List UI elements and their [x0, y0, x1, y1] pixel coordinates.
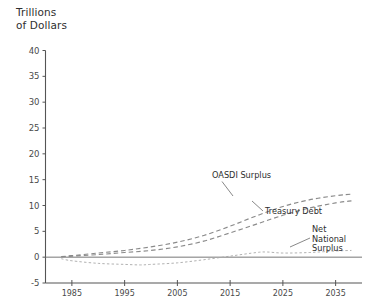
series-line-2	[61, 250, 351, 264]
x-tick-label: 1985	[62, 289, 82, 298]
line-chart-plot: -50510152025303540 198519952005201520252…	[0, 0, 371, 308]
y-tick-label: 10	[29, 201, 40, 211]
x-tick-label: 1995	[114, 289, 134, 298]
label-net-national-surplus-line: Net	[312, 224, 327, 234]
y-axis-tick-labels: -50510152025303540	[29, 46, 40, 289]
label-oasdi-surplus-line: OASDI Surplus	[212, 170, 271, 180]
x-tick-label: 2015	[220, 289, 240, 298]
y-tick-label: 40	[29, 46, 40, 56]
y-tick-label: 30	[29, 97, 40, 107]
series-line-0	[61, 194, 351, 257]
leader-line	[222, 182, 233, 197]
x-tick-label: 2025	[273, 289, 293, 298]
y-tick-label: 20	[29, 149, 40, 159]
y-tick-label: 35	[29, 71, 40, 81]
leader-line	[290, 238, 310, 247]
label-net-national-surplus-line: National	[312, 234, 346, 244]
x-tick-label: 2005	[167, 289, 187, 298]
label-treasury-debt-line: Treasury Debt	[264, 206, 323, 216]
y-tick-label: 5	[34, 226, 39, 236]
y-tick-label: 0	[34, 252, 39, 262]
x-tick-label: 2035	[325, 289, 345, 298]
label-oasdi-surplus: OASDI Surplus	[212, 170, 271, 180]
leader-line	[252, 201, 263, 211]
axis-tick-marks	[43, 51, 336, 287]
data-series-group	[61, 194, 351, 265]
x-axis-tick-labels: 198519952005201520252035	[62, 289, 346, 298]
y-tick-label: -5	[31, 278, 39, 288]
chart-container: Trillions of Dollars -50510152025303540 …	[0, 0, 371, 308]
label-net-national-surplus: NetNationalSurplus	[312, 224, 346, 253]
series-annotation-labels: OASDI SurplusTreasury DebtNetNationalSur…	[212, 170, 346, 253]
label-net-national-surplus-line: Surplus	[312, 243, 343, 253]
y-tick-label: 15	[29, 175, 40, 185]
y-tick-label: 25	[29, 123, 40, 133]
label-treasury-debt: Treasury Debt	[264, 206, 323, 216]
